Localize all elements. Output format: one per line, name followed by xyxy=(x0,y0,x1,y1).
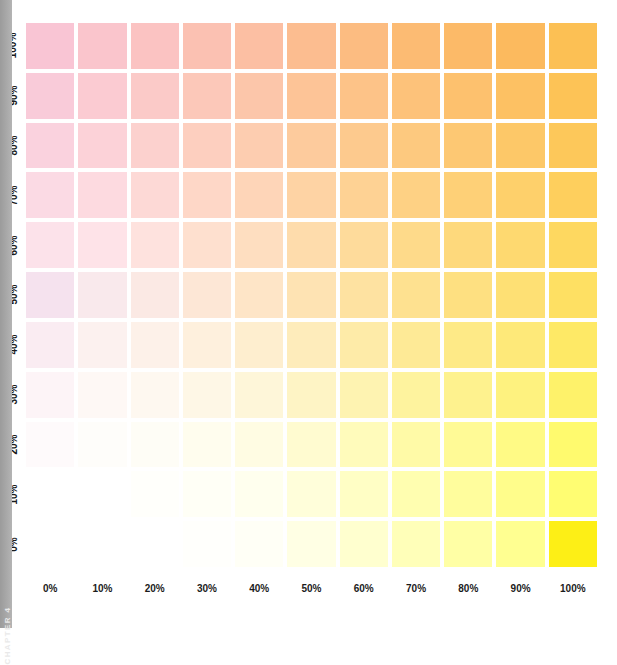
color-swatch xyxy=(287,471,335,517)
color-swatch xyxy=(235,73,283,119)
x-axis-tick: 60% xyxy=(340,575,388,605)
color-swatch xyxy=(392,123,440,169)
x-axis-tick: 90% xyxy=(496,575,544,605)
color-swatch xyxy=(340,23,388,69)
color-swatch xyxy=(392,23,440,69)
color-swatch xyxy=(496,322,544,368)
color-swatch xyxy=(78,123,126,169)
color-swatch xyxy=(496,471,544,517)
color-swatch xyxy=(131,322,179,368)
color-swatch xyxy=(340,272,388,318)
color-swatch xyxy=(444,422,492,468)
color-swatch xyxy=(340,123,388,169)
color-swatch xyxy=(78,521,126,567)
color-swatch xyxy=(287,23,335,69)
color-swatch xyxy=(131,222,179,268)
color-swatch xyxy=(496,73,544,119)
color-swatch xyxy=(340,73,388,119)
x-axis-tick-label: 0% xyxy=(43,583,57,594)
color-swatch xyxy=(287,172,335,218)
color-swatch xyxy=(78,471,126,517)
color-swatch xyxy=(287,123,335,169)
color-swatch xyxy=(26,322,74,368)
color-swatch xyxy=(183,172,231,218)
color-swatch xyxy=(183,521,231,567)
color-swatch xyxy=(549,322,597,368)
color-swatch xyxy=(26,172,74,218)
color-swatch xyxy=(444,73,492,119)
x-axis-tick: 70% xyxy=(392,575,440,605)
color-swatch xyxy=(287,422,335,468)
color-swatch xyxy=(444,272,492,318)
color-swatch xyxy=(392,372,440,418)
x-axis-tick: 100% xyxy=(549,575,597,605)
color-swatch xyxy=(392,422,440,468)
color-swatch xyxy=(78,272,126,318)
color-swatch xyxy=(549,172,597,218)
color-swatch xyxy=(444,23,492,69)
color-swatch xyxy=(340,222,388,268)
x-axis-tick-label: 100% xyxy=(560,583,586,594)
color-swatch xyxy=(183,123,231,169)
color-swatch xyxy=(26,222,74,268)
color-swatch xyxy=(131,372,179,418)
color-swatch xyxy=(444,172,492,218)
color-swatch xyxy=(26,521,74,567)
color-swatch xyxy=(549,23,597,69)
x-axis-tick-label: 70% xyxy=(406,583,426,594)
x-axis-tick: 40% xyxy=(235,575,283,605)
color-swatch xyxy=(131,471,179,517)
color-swatch xyxy=(496,372,544,418)
color-swatch xyxy=(496,123,544,169)
color-swatch xyxy=(183,422,231,468)
color-swatch xyxy=(26,123,74,169)
x-axis-tick-label: 30% xyxy=(197,583,217,594)
color-swatch xyxy=(340,521,388,567)
color-swatch xyxy=(287,73,335,119)
color-swatch xyxy=(496,222,544,268)
color-swatch xyxy=(78,372,126,418)
color-swatch xyxy=(496,521,544,567)
color-swatch xyxy=(131,272,179,318)
x-axis-tick: 30% xyxy=(183,575,231,605)
x-axis-tick-label: 60% xyxy=(354,583,374,594)
x-axis-tick-label: 10% xyxy=(92,583,112,594)
x-axis-tick: 0% xyxy=(26,575,74,605)
color-swatch xyxy=(235,471,283,517)
color-swatch xyxy=(392,73,440,119)
color-swatch xyxy=(78,172,126,218)
color-swatch xyxy=(444,372,492,418)
color-swatch xyxy=(287,222,335,268)
x-axis-tick: 50% xyxy=(287,575,335,605)
color-swatch xyxy=(26,73,74,119)
color-swatch xyxy=(131,23,179,69)
color-swatch xyxy=(496,272,544,318)
x-axis-tick-label: 90% xyxy=(511,583,531,594)
color-swatch xyxy=(392,272,440,318)
color-swatch xyxy=(235,222,283,268)
color-swatch xyxy=(549,73,597,119)
color-swatch xyxy=(392,172,440,218)
color-swatch xyxy=(287,372,335,418)
color-swatch xyxy=(549,123,597,169)
color-swatch xyxy=(340,471,388,517)
color-swatch xyxy=(26,23,74,69)
color-swatch xyxy=(496,23,544,69)
color-swatch xyxy=(549,422,597,468)
color-swatch xyxy=(340,422,388,468)
color-swatch xyxy=(340,322,388,368)
color-swatch xyxy=(549,222,597,268)
color-swatch xyxy=(26,272,74,318)
color-swatch xyxy=(444,123,492,169)
color-swatch xyxy=(235,23,283,69)
color-swatch xyxy=(183,222,231,268)
x-axis-tick-label: 50% xyxy=(301,583,321,594)
color-swatch xyxy=(549,521,597,567)
color-swatch xyxy=(340,172,388,218)
color-swatch xyxy=(235,521,283,567)
color-swatch xyxy=(496,172,544,218)
color-swatch xyxy=(131,521,179,567)
color-swatch xyxy=(26,372,74,418)
color-swatch xyxy=(235,123,283,169)
color-swatch xyxy=(183,322,231,368)
